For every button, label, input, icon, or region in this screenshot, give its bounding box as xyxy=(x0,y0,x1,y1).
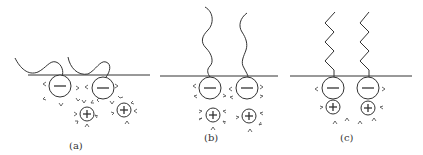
caption-a: (a) xyxy=(69,140,83,151)
tail-zigzag xyxy=(360,12,369,77)
panel-c: (c) xyxy=(290,12,412,143)
counterion-cation xyxy=(361,101,375,115)
headgroup-anion xyxy=(236,77,258,99)
counterion-cation xyxy=(117,103,131,117)
tail-wavy xyxy=(240,13,248,77)
caption-b: (b) xyxy=(204,132,218,143)
caption-c: (c) xyxy=(340,132,354,143)
headgroup-anion xyxy=(322,77,344,99)
tail-curly xyxy=(15,58,63,76)
tail-wavy xyxy=(202,7,212,77)
headgroup-anion xyxy=(92,77,114,99)
counterion-cation xyxy=(80,107,94,121)
headgroup-anion xyxy=(49,75,71,97)
counterion-cation xyxy=(206,108,220,122)
headgroup-anion xyxy=(357,77,379,99)
panel-b: (b) xyxy=(160,7,278,143)
headgroup-anion xyxy=(199,77,221,99)
counterion-cation xyxy=(326,100,340,114)
surfactant-diagram: (a) xyxy=(0,0,423,155)
counterion-cation xyxy=(242,109,256,123)
tail-zigzag xyxy=(325,12,335,77)
panel-a: (a) xyxy=(15,57,150,151)
tail-curly xyxy=(68,57,110,77)
